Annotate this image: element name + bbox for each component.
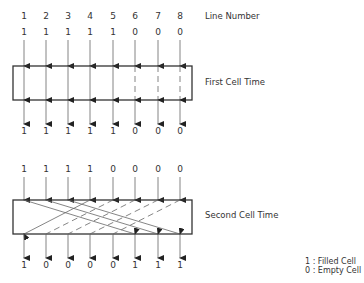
line-number: 8 [177, 11, 183, 21]
input-value: 1 [21, 164, 27, 174]
second-stage-output-arrows [24, 234, 180, 258]
output-value: 1 [21, 126, 27, 136]
output-value: 1 [87, 126, 93, 136]
output-value: 0 [110, 260, 116, 270]
first-cell-time-switch [13, 66, 192, 100]
second-stage-outputs: 1 0 0 0 0 1 1 1 [21, 260, 183, 270]
input-value: 1 [21, 27, 27, 37]
line-number-label: Line Number [205, 11, 260, 21]
first-cell-time-label: First Cell Time [205, 77, 265, 87]
output-value: 1 [155, 260, 161, 270]
output-value: 0 [87, 260, 93, 270]
output-value: 0 [177, 126, 183, 136]
legend-empty: 0 : Empty Cell [305, 266, 361, 275]
input-value: 0 [132, 27, 138, 37]
output-value: 0 [65, 260, 71, 270]
output-value: 0 [132, 126, 138, 136]
input-value: 1 [65, 27, 71, 37]
input-value: 0 [177, 164, 183, 174]
line-number: 6 [132, 11, 138, 21]
input-value: 0 [132, 164, 138, 174]
output-value: 1 [110, 126, 116, 136]
second-stage-input-arrows [24, 177, 180, 200]
line-number: 7 [155, 11, 161, 21]
line-number: 2 [43, 11, 49, 21]
legend: 1 : Filled Cell 0 : Empty Cell [305, 257, 361, 275]
output-value: 0 [43, 260, 49, 270]
line-number: 3 [65, 11, 71, 21]
line-number-row: 1 2 3 4 5 6 7 8 [21, 11, 183, 21]
input-value: 0 [155, 164, 161, 174]
output-value: 1 [21, 260, 27, 270]
first-stage-internal-lines [24, 66, 180, 100]
line-number: 4 [87, 11, 93, 21]
output-value: 0 [155, 126, 161, 136]
output-value: 1 [177, 260, 183, 270]
line-number: 5 [110, 11, 116, 21]
second-stage-inputs: 1 1 1 1 0 0 0 0 [21, 164, 183, 174]
second-cell-time-label: Second Cell Time [205, 210, 278, 220]
legend-filled: 1 : Filled Cell [305, 257, 361, 266]
input-value: 1 [110, 27, 116, 37]
input-value: 1 [87, 164, 93, 174]
input-value: 0 [110, 164, 116, 174]
second-stage-routing-lines [24, 200, 180, 234]
input-value: 1 [87, 27, 93, 37]
first-stage-inputs: 1 1 1 1 1 0 0 0 [21, 27, 183, 37]
input-value: 1 [43, 164, 49, 174]
first-stage-output-arrows [24, 100, 180, 124]
line-number: 1 [21, 11, 27, 21]
input-value: 0 [155, 27, 161, 37]
input-value: 1 [43, 27, 49, 37]
input-value: 0 [177, 27, 183, 37]
output-value: 1 [43, 126, 49, 136]
input-value: 1 [65, 164, 71, 174]
first-stage-outputs: 1 1 1 1 1 0 0 0 [21, 126, 183, 136]
first-stage-input-arrows [24, 40, 180, 66]
cell-switching-diagram: 1 2 3 4 5 6 7 8 Line Number 1 1 1 1 1 0 … [0, 0, 364, 283]
output-value: 1 [132, 260, 138, 270]
output-value: 1 [65, 126, 71, 136]
